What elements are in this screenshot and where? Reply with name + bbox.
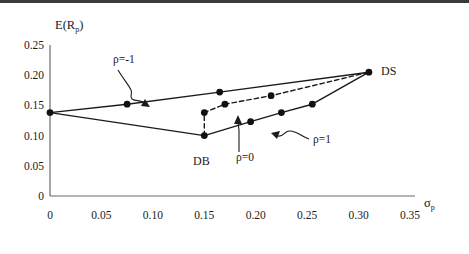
x-axis-ticks: 00.050.100.150.200.250.300.35 — [47, 209, 420, 221]
series--0 — [204, 72, 369, 135]
chart-figure: E(Rp) σp 00.050.100.150.200.25 00.050.10… — [0, 0, 469, 254]
y-axis-title: E(Rp) — [55, 18, 83, 34]
x-axis-title: σp — [424, 196, 435, 212]
data-point — [366, 69, 373, 76]
annotation-rho-0: ρ=0 — [236, 151, 254, 164]
data-point — [47, 109, 54, 116]
y-tick-label: 0.10 — [24, 130, 44, 142]
annotation-db: DB — [193, 154, 210, 168]
x-tick-label: 0.10 — [143, 209, 163, 221]
efficient-frontier-chart: E(Rp) σp 00.050.100.150.200.25 00.050.10… — [0, 0, 469, 254]
svg-text:E(Rp): E(Rp) — [55, 18, 83, 34]
y-tick-label: 0.25 — [24, 39, 44, 51]
series--1-lower — [50, 113, 204, 136]
y-tick-label: 0.05 — [24, 160, 44, 172]
x-tick-label: 0.20 — [246, 209, 266, 221]
annotation-rho-neg1: ρ=-1 — [113, 53, 135, 66]
y-tick-label: 0.20 — [24, 69, 44, 81]
x-axis-title-sub: p — [431, 203, 435, 212]
y-axis-ticks: 00.050.100.150.200.25 — [24, 39, 44, 202]
rho-1-arrowhead — [271, 131, 280, 139]
rho-1-leader — [278, 131, 309, 139]
annotation-rho-1: ρ=1 — [313, 133, 331, 146]
data-point — [201, 132, 208, 139]
rho-0-leader — [238, 122, 239, 152]
rho-neg1-arrowhead — [141, 99, 150, 107]
data-point — [309, 101, 316, 108]
x-tick-label: 0.15 — [194, 209, 214, 221]
data-point-markers — [47, 69, 373, 139]
x-tick-label: 0.30 — [349, 209, 369, 221]
y-tick-label: 0.15 — [24, 99, 44, 111]
data-point — [278, 109, 285, 116]
annotation-ds: DS — [381, 64, 396, 78]
x-tick-label: 0.25 — [297, 209, 317, 221]
svg-text:σp: σp — [424, 196, 435, 212]
frontier-curves — [50, 72, 369, 135]
data-point — [268, 92, 275, 99]
y-axis-title-close: ) — [79, 18, 83, 32]
data-point — [216, 89, 223, 96]
chart-annotations: ρ=-1ρ=0ρ=1DSDB — [113, 53, 396, 168]
rho-0-arrowhead — [234, 115, 242, 124]
y-axis-title-base: E(R — [55, 18, 76, 32]
data-point — [124, 101, 131, 108]
x-tick-label: 0.05 — [91, 209, 111, 221]
rho-neg1-arrow — [118, 70, 146, 104]
data-point — [201, 109, 208, 116]
data-point — [222, 101, 229, 108]
x-tick-label: 0 — [47, 209, 53, 221]
y-tick-label: 0 — [38, 190, 44, 202]
x-tick-label: 0.35 — [400, 209, 420, 221]
series--1 — [50, 72, 369, 112]
data-point — [247, 118, 254, 125]
